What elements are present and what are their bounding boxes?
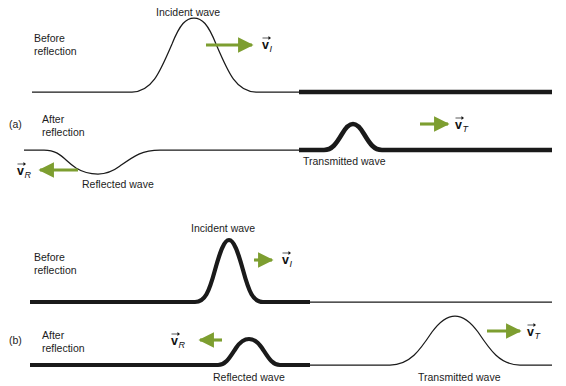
velocity-label-reflected-a: vR bbox=[17, 162, 31, 180]
velocity-symbol-v-a1: v bbox=[262, 38, 269, 52]
wave-reflection-figure: Incident wave Before reflection vI (a) A… bbox=[0, 0, 566, 386]
velocity-symbol-transmitted-b: v bbox=[527, 326, 534, 339]
incident-wave-label-a: Incident wave bbox=[156, 6, 220, 19]
velocity-subscript-transmitted-b: T bbox=[534, 331, 540, 341]
row-b-after-string bbox=[30, 316, 552, 365]
after-reflection-label-b: After reflection bbox=[42, 329, 85, 355]
after-reflection-line2-a: reflection bbox=[42, 126, 85, 139]
panel-label-b: (b) bbox=[9, 334, 22, 346]
panel-label-a: (a) bbox=[9, 118, 22, 130]
after-reflection-line2-b: reflection bbox=[42, 342, 85, 355]
before-reflection-label-b: Before reflection bbox=[34, 251, 77, 277]
transmitted-wave-label-a: Transmitted wave bbox=[303, 155, 385, 168]
velocity-symbol-reflected-b: v bbox=[171, 335, 178, 348]
velocity-symbol-v-a2: v bbox=[17, 164, 24, 178]
before-reflection-line2-a: reflection bbox=[34, 45, 77, 58]
row-a-before-string bbox=[32, 18, 552, 92]
velocity-label-transmitted-a: vT bbox=[455, 116, 468, 134]
before-reflection-label-a: Before reflection bbox=[34, 32, 77, 58]
velocity-label-incident-a: vI bbox=[262, 36, 272, 54]
reflected-wave-label-b: Reflected wave bbox=[213, 371, 285, 384]
before-reflection-line1-a: Before bbox=[34, 32, 77, 45]
velocity-symbol-v-b2: v bbox=[171, 334, 178, 348]
after-reflection-line1-b: After bbox=[42, 329, 85, 342]
velocity-label-reflected-b: vR bbox=[171, 332, 185, 350]
velocity-symbol-v-b3: v bbox=[527, 325, 534, 339]
transmitted-pulse-b bbox=[309, 316, 552, 365]
velocity-label-incident-b: vI bbox=[282, 251, 292, 269]
velocity-symbol-incident-b: v bbox=[282, 254, 289, 267]
velocity-subscript-transmitted-a: T bbox=[462, 124, 468, 134]
velocity-subscript-reflected-a: R bbox=[24, 170, 31, 180]
after-reflection-label-a: After reflection bbox=[42, 113, 85, 139]
row-a-after-string bbox=[24, 124, 552, 174]
velocity-symbol-reflected-a: v bbox=[17, 165, 24, 178]
velocity-subscript-incident-a: I bbox=[269, 44, 272, 54]
velocity-symbol-v-b1: v bbox=[282, 253, 289, 267]
velocity-symbol-incident-a: v bbox=[262, 39, 269, 52]
velocity-subscript-incident-b: I bbox=[289, 259, 292, 269]
velocity-symbol-v-a3: v bbox=[455, 118, 462, 132]
row-b-before-string bbox=[30, 240, 552, 302]
velocity-label-transmitted-b: vT bbox=[527, 323, 540, 341]
figure-drawing-layer bbox=[0, 0, 566, 386]
reflected-wave-label-a: Reflected wave bbox=[82, 178, 154, 191]
velocity-subscript-reflected-b: R bbox=[178, 340, 185, 350]
velocity-symbol-transmitted-a: v bbox=[455, 119, 462, 132]
transmitted-pulse-a bbox=[299, 124, 552, 150]
transmitted-wave-label-b: Transmitted wave bbox=[418, 371, 500, 384]
after-reflection-line1-a: After bbox=[42, 113, 85, 126]
before-reflection-line2-b: reflection bbox=[34, 264, 77, 277]
incident-wave-label-b: Incident wave bbox=[191, 222, 255, 235]
before-reflection-line1-b: Before bbox=[34, 251, 77, 264]
